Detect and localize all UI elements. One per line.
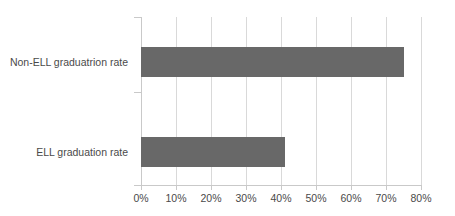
- bar-chart: Non-ELL graduatrion rateELL graduation r…: [0, 0, 455, 216]
- x-tick-50pct: [316, 185, 317, 190]
- gridline-50pct: [316, 17, 317, 185]
- x-axis-tick-label: 20%: [191, 192, 231, 204]
- x-tick-40pct: [281, 185, 282, 190]
- x-axis-tick-label: 0%: [121, 192, 161, 204]
- gridline-60pct: [351, 17, 352, 185]
- x-tick-80pct: [421, 185, 422, 190]
- x-tick-30pct: [246, 185, 247, 190]
- x-axis-tick-label: 50%: [296, 192, 336, 204]
- gridline-80pct: [421, 17, 422, 185]
- x-tick-10pct: [176, 185, 177, 190]
- bar-1: [141, 137, 285, 167]
- x-tick-70pct: [386, 185, 387, 190]
- bar-0: [141, 47, 404, 77]
- y-tick-0: [134, 17, 141, 18]
- x-axis-tick-label: 60%: [331, 192, 371, 204]
- y-tick-2: [134, 185, 141, 186]
- x-axis-tick-label: 80%: [401, 192, 441, 204]
- x-axis-tick-label: 30%: [226, 192, 266, 204]
- x-axis-tick-label: 10%: [156, 192, 196, 204]
- category-label-0: Non-ELL graduatrion rate: [0, 56, 134, 68]
- category-label-1: ELL graduation rate: [0, 146, 134, 158]
- x-tick-0pct: [141, 185, 142, 190]
- y-tick-1: [134, 92, 141, 93]
- x-axis-tick-label: 70%: [366, 192, 406, 204]
- x-tick-60pct: [351, 185, 352, 190]
- x-axis-tick-label: 40%: [261, 192, 301, 204]
- gridline-70pct: [386, 17, 387, 185]
- x-tick-20pct: [211, 185, 212, 190]
